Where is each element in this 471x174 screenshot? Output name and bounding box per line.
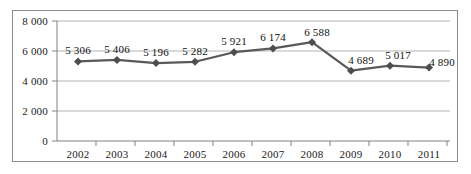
x-tick-label-2007: 2007	[251, 149, 295, 160]
data-label-2002: 5 306	[57, 45, 99, 56]
data-label-2006: 5 921	[213, 36, 255, 47]
data-label-2011: 4 890	[421, 57, 463, 68]
x-tick-label-2002: 2002	[56, 149, 100, 160]
data-label-2009: 4 689	[340, 55, 382, 66]
x-tick-label-2010: 2010	[368, 149, 412, 160]
y-tick-label-4000: 4 000	[6, 76, 48, 87]
y-tick-label-0: 0	[6, 136, 48, 147]
x-tick-label-2008: 2008	[290, 149, 334, 160]
x-tick-label-2006: 2006	[212, 149, 256, 160]
data-label-2008: 6 588	[296, 27, 338, 38]
y-tick-label-6000: 6 000	[6, 46, 48, 57]
data-label-2007: 6 174	[252, 32, 294, 43]
data-label-2010: 5 017	[377, 50, 419, 61]
x-tick-label-2005: 2005	[173, 149, 217, 160]
chart-frame	[12, 10, 458, 162]
x-tick-label-2003: 2003	[95, 149, 139, 160]
y-tick-label-8000: 8 000	[6, 16, 48, 27]
data-label-2003: 5 406	[96, 44, 138, 55]
data-label-2004: 5 196	[135, 47, 177, 58]
data-label-2005: 5 282	[174, 46, 216, 57]
y-tick-label-2000: 2 000	[6, 106, 48, 117]
x-tick-label-2009: 2009	[329, 149, 373, 160]
x-tick-label-2004: 2004	[134, 149, 178, 160]
x-tick-label-2011: 2011	[407, 149, 451, 160]
